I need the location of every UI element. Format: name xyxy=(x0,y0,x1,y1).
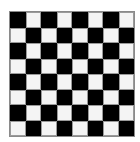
light-square xyxy=(119,74,135,90)
dark-square xyxy=(119,59,135,75)
checkerboard xyxy=(9,11,135,137)
light-square xyxy=(41,28,57,44)
dark-square xyxy=(26,121,42,137)
dark-square xyxy=(119,28,135,44)
light-square xyxy=(72,90,88,106)
dark-square xyxy=(10,74,26,90)
light-square xyxy=(103,121,119,137)
dark-square xyxy=(88,59,104,75)
dark-square xyxy=(103,74,119,90)
dark-square xyxy=(26,90,42,106)
light-square xyxy=(72,28,88,44)
dark-square xyxy=(41,43,57,59)
light-square xyxy=(57,105,73,121)
light-square xyxy=(88,12,104,28)
light-square xyxy=(26,105,42,121)
light-square xyxy=(88,105,104,121)
light-square xyxy=(88,43,104,59)
dark-square xyxy=(26,28,42,44)
light-square xyxy=(119,43,135,59)
light-square xyxy=(72,59,88,75)
dark-square xyxy=(88,121,104,137)
light-square xyxy=(57,74,73,90)
dark-square xyxy=(119,121,135,137)
dark-square xyxy=(103,105,119,121)
light-square xyxy=(88,74,104,90)
dark-square xyxy=(41,12,57,28)
light-square xyxy=(10,59,26,75)
light-square xyxy=(41,90,57,106)
dark-square xyxy=(57,90,73,106)
light-square xyxy=(57,43,73,59)
dark-square xyxy=(72,105,88,121)
light-square xyxy=(103,28,119,44)
light-square xyxy=(57,12,73,28)
dark-square xyxy=(26,59,42,75)
dark-square xyxy=(103,43,119,59)
light-square xyxy=(10,28,26,44)
dark-square xyxy=(72,74,88,90)
dark-square xyxy=(10,12,26,28)
dark-square xyxy=(88,28,104,44)
dark-square xyxy=(72,43,88,59)
dark-square xyxy=(57,28,73,44)
light-square xyxy=(103,59,119,75)
light-square xyxy=(41,121,57,137)
dark-square xyxy=(41,74,57,90)
dark-square xyxy=(103,12,119,28)
light-square xyxy=(72,121,88,137)
light-square xyxy=(119,105,135,121)
dark-square xyxy=(119,90,135,106)
dark-square xyxy=(72,12,88,28)
light-square xyxy=(26,74,42,90)
light-square xyxy=(26,43,42,59)
dark-square xyxy=(10,43,26,59)
light-square xyxy=(119,12,135,28)
light-square xyxy=(41,59,57,75)
dark-square xyxy=(57,59,73,75)
light-square xyxy=(103,90,119,106)
dark-square xyxy=(10,105,26,121)
light-square xyxy=(26,12,42,28)
dark-square xyxy=(57,121,73,137)
dark-square xyxy=(88,90,104,106)
dark-square xyxy=(41,105,57,121)
light-square xyxy=(10,90,26,106)
light-square xyxy=(10,121,26,137)
